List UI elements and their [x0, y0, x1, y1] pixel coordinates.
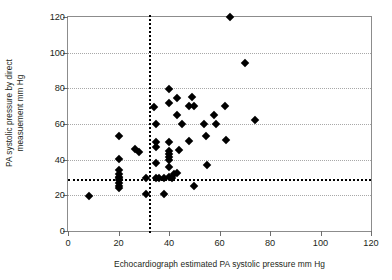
gridline-horizontal [68, 160, 371, 161]
data-point-marker [165, 138, 173, 146]
x-axis-tick [371, 231, 372, 236]
data-point-marker [150, 103, 158, 111]
y-axis-title-container: PA systolic pressure by direct measuemen… [0, 0, 36, 232]
data-point-marker [185, 137, 193, 145]
x-axis-tick [270, 231, 271, 236]
data-point-marker [225, 13, 233, 21]
data-point-marker [114, 131, 122, 139]
y-axis-tick-label: 20 [35, 190, 65, 200]
y-axis-title-line-1: PA systolic pressure by direct [4, 4, 15, 222]
x-axis-tick [119, 231, 120, 236]
x-axis-tick [68, 231, 69, 236]
x-axis-tick-label: 40 [154, 238, 184, 248]
x-axis-tick-label: 100 [306, 238, 336, 248]
data-point-marker [172, 94, 180, 102]
x-axis-tick-label: 0 [53, 238, 83, 248]
y-axis-tick-label: 120 [35, 12, 65, 22]
x-axis-title: Echocardiograph estimated PA systolic pr… [67, 259, 372, 269]
data-point-marker [175, 146, 183, 154]
data-point-marker [165, 85, 173, 93]
gridline-horizontal [68, 195, 371, 196]
data-point-marker [177, 120, 185, 128]
data-point-marker [187, 93, 195, 101]
data-point-marker [201, 132, 209, 140]
data-point-marker [211, 120, 219, 128]
plot-area: 020406080100120020406080100120 [67, 16, 372, 232]
y-axis-tick-label: 0 [35, 226, 65, 236]
y-axis-title-line-2: measuement mm Hg [15, 4, 26, 222]
y-axis-title: PA systolic pressure by direct measuemen… [4, 4, 26, 222]
y-axis-tick-label: 80 [35, 83, 65, 93]
data-point-marker [152, 120, 160, 128]
y-axis-tick-label: 100 [35, 48, 65, 58]
x-axis-tick [321, 231, 322, 236]
data-point-marker [160, 189, 168, 197]
data-point-marker [220, 102, 228, 110]
data-point-marker [190, 182, 198, 190]
data-point-marker [172, 111, 180, 119]
data-point-marker [222, 136, 230, 144]
scatter-plot-figure: PA systolic pressure by direct measuemen… [0, 0, 392, 280]
x-axis-tick-label: 60 [205, 238, 235, 248]
data-point-marker [85, 192, 93, 200]
data-point-marker [190, 102, 198, 110]
data-point-marker [152, 143, 160, 151]
x-axis-tick-label: 20 [104, 238, 134, 248]
data-point-marker [165, 99, 173, 107]
gridline-horizontal [68, 88, 371, 89]
data-point-marker [203, 161, 211, 169]
y-axis-tick-label: 60 [35, 119, 65, 129]
data-point-marker [200, 120, 208, 128]
data-point-marker [241, 59, 249, 67]
data-point-marker [210, 111, 218, 119]
data-point-marker [114, 155, 122, 163]
x-axis-tick [169, 231, 170, 236]
data-point-marker [165, 163, 173, 171]
y-axis-tick-label: 40 [35, 155, 65, 165]
gridline-horizontal [68, 53, 371, 54]
x-axis-tick-label: 80 [255, 238, 285, 248]
x-axis-tick [220, 231, 221, 236]
x-axis-tick-label: 120 [356, 238, 386, 248]
reference-line-vertical [149, 15, 151, 233]
